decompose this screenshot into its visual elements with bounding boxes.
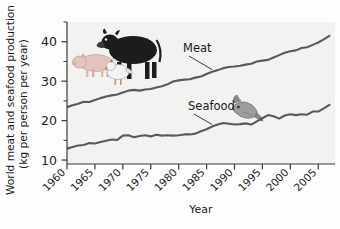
x-axis-tick-labels: 1960196519701975198019851990199520002005 [40, 166, 319, 193]
y-tick-label: 20 [41, 113, 57, 128]
annotation-label-seafood: Seafood [188, 99, 235, 113]
x-tick-label: 1960 [40, 166, 67, 193]
y-axis-title-line2: (kg per person per year) [17, 39, 29, 169]
y-axis-tick-labels: 10203040 [41, 34, 57, 167]
y-tick-label: 10 [41, 153, 57, 168]
x-tick-label: 1975 [124, 166, 151, 193]
x-tick-label: 1965 [68, 166, 95, 193]
x-tick-label: 1985 [180, 166, 207, 193]
x-tick-label: 1995 [235, 166, 262, 193]
line-chart: Meat Seafood 10203040 196019651970197519… [0, 0, 340, 229]
x-tick-label: 1970 [96, 166, 123, 193]
x-tick-label: 2005 [291, 166, 318, 193]
x-axis-title: Year [188, 203, 213, 216]
x-tick-label: 1990 [208, 166, 235, 193]
y-tick-label: 30 [41, 74, 57, 89]
y-axis-ticks [62, 22, 68, 160]
x-tick-label: 2000 [263, 166, 290, 193]
annotation-label-meat: Meat [183, 41, 212, 55]
y-tick-label: 40 [41, 34, 57, 49]
y-axis-title-line1: World meat and seafood production [4, 5, 16, 195]
chart-figure: Meat Seafood 10203040 196019651970197519… [0, 0, 340, 229]
x-tick-label: 1980 [152, 166, 179, 193]
